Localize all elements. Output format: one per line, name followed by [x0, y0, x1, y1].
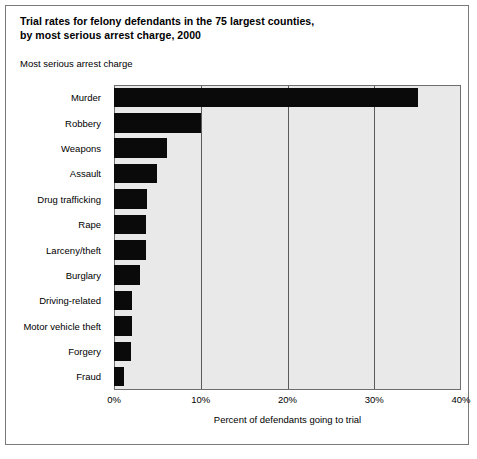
category-label-row: Robbery [6, 110, 107, 135]
x-tick-label: 30% [365, 394, 384, 405]
bar-row [114, 85, 461, 110]
category-label: Drug trafficking [37, 194, 101, 205]
x-tick-label: 10% [191, 394, 210, 405]
category-label: Rape [78, 219, 101, 230]
x-tick-label: 0% [107, 394, 121, 405]
category-label-row: Fraud [6, 364, 107, 389]
bar-row [114, 288, 461, 313]
category-label-row: Drug trafficking [6, 187, 107, 212]
bar [114, 138, 167, 158]
chart-title-line-2: by most serious arrest charge, 2000 [20, 29, 450, 43]
category-label-row: Larceny/theft [6, 237, 107, 262]
x-axis-label: Percent of defendants going to trial [114, 414, 461, 425]
bar [114, 88, 418, 108]
chart-subtitle: Most serious arrest charge [20, 58, 132, 69]
x-axis-ticks: 0%10%20%30%40% [114, 394, 461, 407]
category-label-row: Burglary [6, 263, 107, 288]
category-label-row: Weapons [6, 136, 107, 161]
bar-row [114, 339, 461, 364]
category-label: Burglary [66, 270, 101, 281]
chart-title: Trial rates for felony defendants in the… [20, 15, 450, 42]
bar [114, 189, 147, 209]
category-label-row: Rape [6, 212, 107, 237]
category-label: Murder [71, 92, 101, 103]
bar-series [114, 85, 461, 390]
bar [114, 316, 132, 336]
bar-row [114, 187, 461, 212]
figure-footnote [8, 450, 308, 458]
bar-row [114, 237, 461, 262]
bar [114, 113, 201, 133]
category-label: Fraud [76, 371, 101, 382]
bar [114, 291, 132, 311]
bar [114, 164, 157, 184]
category-label: Weapons [61, 143, 101, 154]
bar [114, 367, 124, 387]
x-tick-label: 40% [451, 394, 470, 405]
category-label-row: Murder [6, 85, 107, 110]
bar-row [114, 263, 461, 288]
category-label: Driving-related [39, 295, 101, 306]
bar-row [114, 212, 461, 237]
category-label-row: Assault [6, 161, 107, 186]
category-label: Forgery [68, 346, 101, 357]
category-axis: MurderRobberyWeaponsAssaultDrug traffick… [6, 85, 107, 390]
category-label: Motor vehicle theft [23, 321, 101, 332]
category-label-row: Driving-related [6, 288, 107, 313]
bar [114, 342, 131, 362]
bar-row [114, 314, 461, 339]
bar-row [114, 136, 461, 161]
category-label-row: Motor vehicle theft [6, 314, 107, 339]
bar-row [114, 161, 461, 186]
bar-row [114, 364, 461, 389]
bar [114, 240, 146, 260]
category-label: Assault [70, 168, 101, 179]
bar [114, 265, 140, 285]
x-tick-label: 20% [278, 394, 297, 405]
category-label: Robbery [65, 118, 101, 129]
bar [114, 215, 146, 235]
category-label: Larceny/theft [46, 245, 101, 256]
bar-row [114, 110, 461, 135]
category-label-row: Forgery [6, 339, 107, 364]
chart-title-line-1: Trial rates for felony defendants in the… [20, 15, 314, 27]
figure-frame: Trial rates for felony defendants in the… [5, 5, 469, 445]
